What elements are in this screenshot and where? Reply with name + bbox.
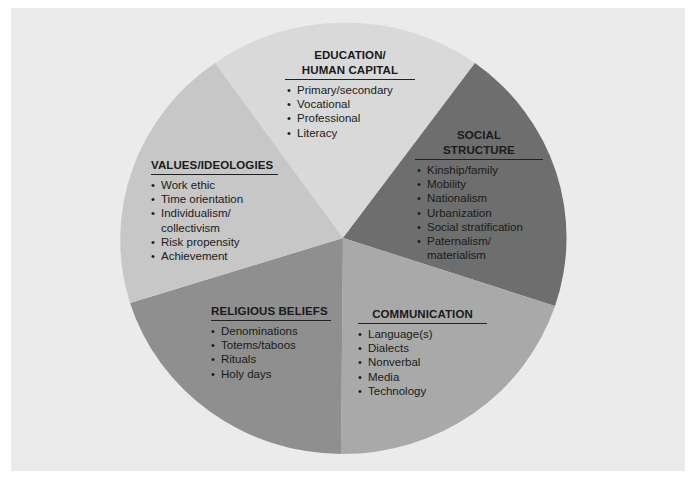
list-item: Language(s) [358, 327, 487, 341]
list-item: Professional [287, 111, 415, 125]
social-structure-label: SOCIAL STRUCTURE Kinship/family Mobility… [415, 128, 543, 262]
list-item: Vocational [287, 97, 415, 111]
list-item: Kinship/family [417, 163, 543, 177]
social-structure-heading-line-2: STRUCTURE [415, 143, 543, 158]
social-structure-heading: SOCIAL STRUCTURE [415, 128, 543, 160]
values-ideologies-label: VALUES/IDEOLOGIES Work ethic Time orient… [151, 158, 278, 263]
religious-beliefs-list: Denominations Totems/taboos Rituals Holy… [211, 324, 331, 381]
religious-beliefs-heading: RELIGIOUS BELIEFS [211, 304, 331, 321]
list-item: Rituals [211, 352, 331, 366]
values-ideologies-heading: VALUES/IDEOLOGIES [151, 158, 278, 175]
list-item-continuation: collectivism [151, 221, 278, 235]
list-item: Primary/secondary [287, 83, 415, 97]
list-item: Nationalism [417, 191, 543, 205]
social-structure-list: Kinship/family Mobility Nationalism Urba… [417, 163, 543, 262]
list-item: Achievement [151, 249, 278, 263]
list-item: Urbanization [417, 206, 543, 220]
list-item: Totems/taboos [211, 338, 331, 352]
values-ideologies-heading-line-1: VALUES/IDEOLOGIES [151, 158, 278, 173]
religious-beliefs-label: RELIGIOUS BELIEFS Denominations Totems/t… [211, 304, 331, 381]
list-item: Paternalism/ [417, 234, 543, 248]
education-list: Primary/secondary Vocational Professiona… [287, 83, 415, 140]
list-item: Literacy [287, 126, 415, 140]
list-item: Time orientation [151, 192, 278, 206]
education-heading-line-2: HUMAN CAPITAL [285, 63, 415, 78]
list-item: Nonverbal [358, 355, 487, 369]
list-item: Denominations [211, 324, 331, 338]
list-item: Holy days [211, 367, 331, 381]
list-item: Work ethic [151, 178, 278, 192]
communication-list: Language(s) Dialects Nonverbal Media Tec… [358, 327, 487, 398]
list-item: Social stratification [417, 220, 543, 234]
communication-heading: COMMUNICATION [358, 307, 487, 324]
education-heading-line-1: EDUCATION/ [285, 48, 415, 63]
education-label: EDUCATION/ HUMAN CAPITAL Primary/seconda… [285, 48, 415, 140]
list-item: Technology [358, 384, 487, 398]
values-ideologies-list: Work ethic Time orientation Individualis… [151, 178, 278, 263]
communication-heading-line-1: COMMUNICATION [358, 307, 487, 322]
list-item: Dialects [358, 341, 487, 355]
list-item: Media [358, 370, 487, 384]
list-item-continuation: materialism [417, 248, 543, 262]
list-item: Risk propensity [151, 235, 278, 249]
social-structure-heading-line-1: SOCIAL [415, 128, 543, 143]
religious-beliefs-heading-line-1: RELIGIOUS BELIEFS [211, 304, 331, 319]
education-heading: EDUCATION/ HUMAN CAPITAL [285, 48, 415, 80]
communication-label: COMMUNICATION Language(s) Dialects Nonve… [358, 307, 487, 398]
list-item: Individualism/ [151, 206, 278, 220]
list-item: Mobility [417, 177, 543, 191]
